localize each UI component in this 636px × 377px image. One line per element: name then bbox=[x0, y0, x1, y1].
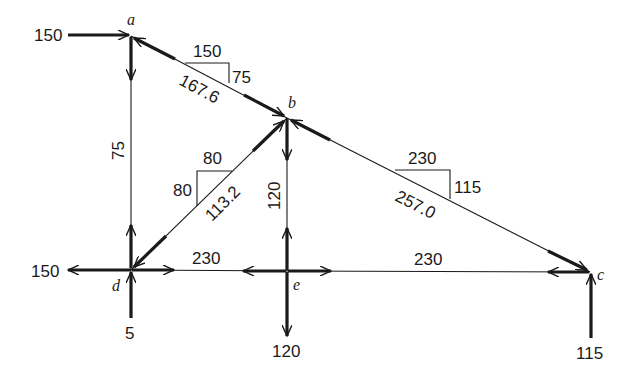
node-label-e: e bbox=[293, 276, 300, 293]
arrow-icon bbox=[548, 251, 587, 270]
node-label-b: b bbox=[288, 94, 296, 111]
node-label-d: d bbox=[112, 277, 121, 294]
rise-bd-label: 80 bbox=[173, 181, 192, 200]
external-force-e-label: 120 bbox=[272, 342, 300, 361]
member-bc bbox=[287, 118, 590, 272]
node-label-a: a bbox=[127, 11, 135, 28]
members bbox=[131, 36, 590, 272]
force-bd-label: 113.2 bbox=[201, 182, 244, 225]
arrow-icon bbox=[291, 120, 330, 140]
arrow-icon bbox=[253, 121, 284, 151]
node-labels: a b c d e bbox=[112, 11, 604, 294]
force-de-label: 230 bbox=[192, 249, 220, 268]
force-be-label: 120 bbox=[265, 182, 284, 210]
run-ab-label: 150 bbox=[193, 42, 221, 61]
truss-free-body-diagram: a b c d e 167.6 150 75 257.0 230 115 113… bbox=[0, 0, 636, 377]
rise-bc-label: 115 bbox=[454, 178, 481, 197]
arrow-icon bbox=[244, 95, 284, 116]
run-bc-label: 230 bbox=[408, 149, 436, 168]
external-force-a-label: 150 bbox=[34, 26, 62, 45]
external-forces bbox=[68, 35, 591, 338]
member-ec bbox=[287, 271, 590, 272]
external-force-c-label: 115 bbox=[576, 344, 603, 363]
arrow-icon bbox=[134, 38, 175, 59]
force-ec-label: 230 bbox=[414, 250, 442, 269]
rise-ab-label: 75 bbox=[232, 68, 251, 87]
external-force-d-vertical-label: 5 bbox=[125, 324, 134, 343]
force-ad-label: 75 bbox=[109, 141, 128, 160]
run-bd-label: 80 bbox=[203, 149, 222, 168]
force-ab-label: 167.6 bbox=[176, 71, 223, 108]
arrow-icon bbox=[134, 236, 166, 267]
node-label-c: c bbox=[597, 266, 604, 283]
force-labels: 167.6 150 75 257.0 230 115 113.2 80 80 7… bbox=[31, 26, 603, 363]
external-force-d-horizontal-label: 150 bbox=[31, 262, 59, 281]
